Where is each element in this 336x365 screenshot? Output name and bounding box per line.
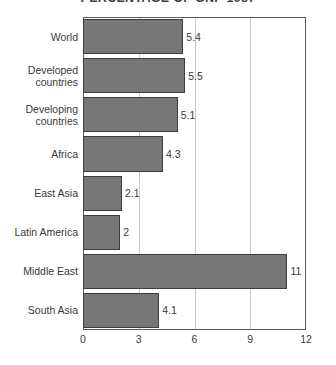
bar-row: 5.4	[83, 19, 306, 54]
x-tick-label: 9	[247, 333, 253, 345]
x-tick-label: 3	[136, 333, 142, 345]
x-axis-tick-labels: 036912	[83, 333, 306, 353]
bar-row: 4.3	[83, 136, 306, 171]
bar	[83, 58, 185, 93]
bar-row: 11	[83, 254, 306, 289]
category-label: Middle East	[0, 265, 78, 277]
bar	[83, 176, 122, 211]
bar-row: 4.1	[83, 293, 306, 328]
bar	[83, 293, 159, 328]
x-tick-label: 0	[80, 333, 86, 345]
bar	[83, 136, 163, 171]
category-label: Developingcountries	[0, 103, 78, 127]
bar-row: 2.1	[83, 176, 306, 211]
bar-value-label: 2.1	[122, 187, 140, 199]
bar-value-label: 4.3	[163, 148, 181, 160]
category-labels: WorldDevelopedcountriesDevelopingcountri…	[0, 17, 78, 330]
bar	[83, 254, 287, 289]
category-label: East Asia	[0, 187, 78, 199]
category-label: World	[0, 31, 78, 43]
bar-row: 5.5	[83, 58, 306, 93]
bar-value-label: 2	[120, 226, 129, 238]
bar	[83, 215, 120, 250]
bar-value-label: 5.5	[185, 70, 203, 82]
x-tick-label: 12	[300, 333, 312, 345]
category-label: South Asia	[0, 304, 78, 316]
bar-value-label: 5.4	[183, 31, 201, 43]
category-label: Latin America	[0, 226, 78, 238]
bar	[83, 19, 183, 54]
bar-row: 5.1	[83, 97, 306, 132]
bar-row: 2	[83, 215, 306, 250]
bar-value-label: 4.1	[159, 304, 177, 316]
bars-layer: 5.45.55.14.32.12114.1	[83, 17, 306, 330]
bar-value-label: 5.1	[178, 109, 196, 121]
bar	[83, 97, 178, 132]
bar-value-label: 11	[287, 265, 301, 277]
category-label: Developedcountries	[0, 64, 78, 88]
chart-title: PERCENTAGE OF GNP 1987	[0, 0, 336, 5]
x-tick-label: 6	[192, 333, 198, 345]
category-label: Africa	[0, 148, 78, 160]
